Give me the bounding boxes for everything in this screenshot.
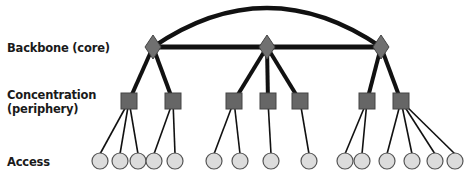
concentration-node-square [292,93,308,109]
access-node-circle [130,153,146,169]
access-node-circle [379,153,395,169]
backbone-node-diamond [373,35,389,59]
access-nodes [92,153,463,169]
access-node-circle [301,153,317,169]
access-node-circle [427,153,443,169]
access-node-circle [354,153,370,169]
concentration-node-square [393,93,409,109]
access-node-circle [447,153,463,169]
access-node-circle [206,153,222,169]
access-node-circle [337,153,353,169]
access-node-circle [92,153,108,169]
concentration-node-square [359,93,375,109]
concentration-node-square [121,93,137,109]
access-node-circle [146,153,162,169]
access-node-circle [263,153,279,169]
concentration-nodes [121,93,409,109]
access-node-circle [404,153,420,169]
access-node-circle [232,153,248,169]
access-node-circle [112,153,128,169]
network-diagram [0,0,468,182]
concentration-node-square [260,93,276,109]
access-node-circle [167,153,183,169]
concentration-node-square [165,93,181,109]
concentration-node-square [226,93,242,109]
